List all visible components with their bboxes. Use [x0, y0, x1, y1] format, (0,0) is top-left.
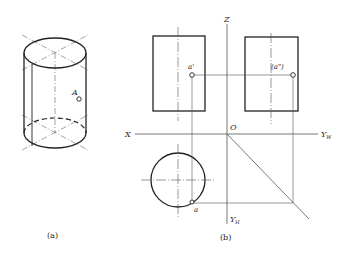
projection-figure: Z X O YW YH a' (a") a (b): [124, 15, 332, 242]
side-view-rect: [245, 37, 298, 111]
cylinder-figure: A (a): [22, 35, 88, 240]
diagonal-45: [227, 134, 309, 219]
bottom-ellipse-front: [24, 133, 86, 148]
yw-axis-label: YW: [321, 130, 332, 140]
projection-diagram: A (a) Z X O YW YH a' (a") a: [0, 0, 345, 259]
origin-label: O: [230, 123, 237, 132]
point-a-front-marker: [190, 73, 195, 78]
point-a-front-label: a': [188, 63, 194, 71]
point-a-top-marker: [190, 200, 194, 204]
yh-axis-label: YH: [230, 215, 240, 225]
point-a-top-label: a: [194, 206, 198, 214]
point-a-marker: [77, 97, 81, 101]
point-a-label: A: [71, 88, 78, 97]
z-axis-label: Z: [223, 15, 230, 24]
caption-a: (a): [47, 231, 58, 240]
point-a-side-marker: [291, 73, 296, 78]
point-a-side-label: (a"): [271, 63, 284, 71]
x-axis-label: X: [124, 130, 131, 139]
front-view-rect: [153, 36, 205, 111]
caption-b: (b): [220, 233, 231, 242]
